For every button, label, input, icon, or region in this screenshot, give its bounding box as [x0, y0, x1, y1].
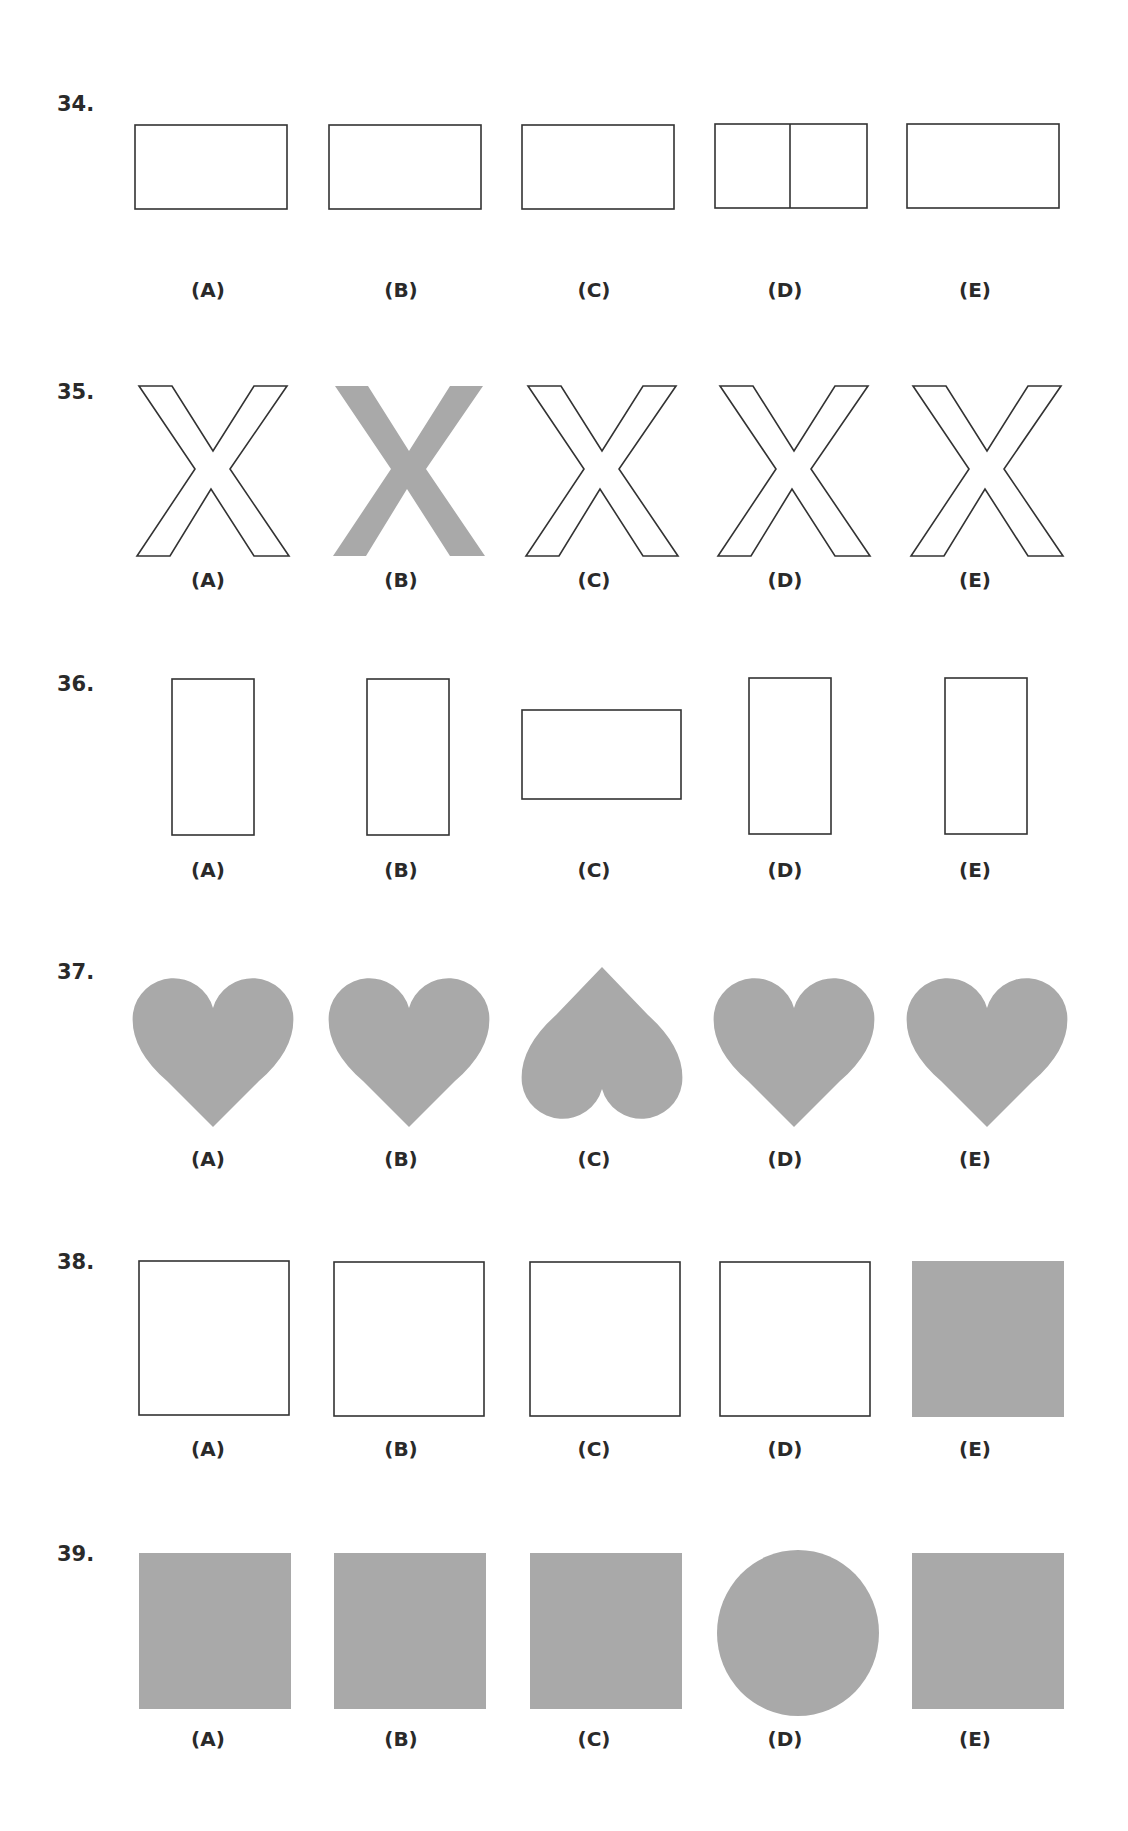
option-d-label: (D) [745, 278, 825, 302]
option-d-divided-rectangle-icon[interactable] [714, 123, 868, 209]
option-a-label: (A) [168, 1437, 248, 1461]
option-b-label: (B) [361, 1147, 441, 1171]
option-c-label: (C) [554, 1147, 634, 1171]
option-c-square-icon[interactable] [529, 1261, 681, 1417]
option-b-horizontal-rectangle-icon[interactable] [328, 124, 482, 210]
option-c-label: (C) [554, 278, 634, 302]
question-number: 36. [57, 672, 94, 696]
option-d-label: (D) [745, 568, 825, 592]
option-a-filled-square-icon[interactable] [139, 1553, 291, 1709]
option-c-label: (C) [554, 1727, 634, 1751]
option-a-label: (A) [168, 1147, 248, 1171]
option-e-label: (E) [935, 1437, 1015, 1461]
option-b-filled-square-icon[interactable] [334, 1553, 486, 1709]
option-b-vertical-rectangle-icon[interactable] [366, 678, 450, 836]
option-e-x-shape-icon[interactable] [911, 385, 1063, 557]
option-b-label: (B) [361, 278, 441, 302]
option-a-label: (A) [168, 568, 248, 592]
option-c-horizontal-rectangle-icon[interactable] [521, 124, 675, 210]
option-b-square-icon[interactable] [333, 1261, 485, 1417]
option-e-vertical-rectangle-icon[interactable] [944, 677, 1028, 835]
option-a-heart-icon[interactable] [129, 973, 297, 1128]
option-c-x-shape-icon[interactable] [526, 385, 678, 557]
option-b-label: (B) [361, 858, 441, 882]
option-e-filled-square-icon[interactable] [912, 1553, 1064, 1709]
question-number: 35. [57, 380, 94, 404]
option-d-vertical-rectangle-icon[interactable] [748, 677, 832, 835]
option-a-x-shape-icon[interactable] [137, 385, 289, 557]
option-a-vertical-rectangle-icon[interactable] [171, 678, 255, 836]
option-c-label: (C) [554, 858, 634, 882]
option-e-label: (E) [935, 568, 1015, 592]
option-e-filled-square-icon[interactable] [912, 1261, 1064, 1417]
option-e-label: (E) [935, 1147, 1015, 1171]
option-d-x-shape-icon[interactable] [718, 385, 870, 557]
question-number: 37. [57, 960, 94, 984]
option-e-label: (E) [935, 858, 1015, 882]
option-c-label: (C) [554, 568, 634, 592]
option-d-filled-circle-icon[interactable] [716, 1549, 880, 1717]
option-a-square-icon[interactable] [138, 1260, 290, 1416]
option-c-label: (C) [554, 1437, 634, 1461]
question-number: 38. [57, 1250, 94, 1274]
option-b-label: (B) [361, 1727, 441, 1751]
option-a-horizontal-rectangle-icon[interactable] [134, 124, 288, 210]
option-b-label: (B) [361, 568, 441, 592]
option-e-label: (E) [935, 1727, 1015, 1751]
option-e-horizontal-rectangle-icon[interactable] [906, 123, 1060, 209]
option-c-inverted-heart-icon[interactable] [518, 967, 686, 1122]
option-d-square-icon[interactable] [719, 1261, 871, 1417]
question-number: 39. [57, 1542, 94, 1566]
option-d-label: (D) [745, 1147, 825, 1171]
option-d-label: (D) [745, 1437, 825, 1461]
option-b-label: (B) [361, 1437, 441, 1461]
option-d-label: (D) [745, 858, 825, 882]
option-a-label: (A) [168, 1727, 248, 1751]
option-c-filled-square-icon[interactable] [530, 1553, 682, 1709]
question-number: 34. [57, 92, 94, 116]
option-a-label: (A) [168, 278, 248, 302]
option-c-horizontal-rectangle-icon[interactable] [521, 709, 682, 800]
option-d-heart-icon[interactable] [710, 973, 878, 1128]
option-e-heart-icon[interactable] [903, 973, 1071, 1128]
option-b-x-shape-icon[interactable] [333, 385, 485, 557]
option-a-label: (A) [168, 858, 248, 882]
option-b-heart-icon[interactable] [325, 973, 493, 1128]
option-d-label: (D) [745, 1727, 825, 1751]
option-e-label: (E) [935, 278, 1015, 302]
